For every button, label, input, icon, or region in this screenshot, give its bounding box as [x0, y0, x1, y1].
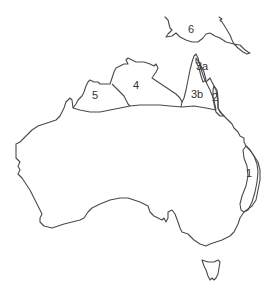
region-label-2: 2: [212, 91, 218, 103]
zone-3b-west-divider: [181, 102, 182, 107]
northern-boundary-line: [73, 105, 216, 112]
map-container: 1 2 3a 3b 4 5 6: [0, 0, 279, 296]
region-label-1: 1: [246, 167, 252, 179]
region-label-4: 4: [133, 79, 139, 91]
region-label-3b: 3b: [191, 88, 203, 100]
region-label-5: 5: [92, 89, 98, 101]
zone-1-outline: [240, 146, 258, 212]
australia-map: 1 2 3a 3b 4 5 6: [0, 0, 279, 296]
zone-4-5-divider: [112, 84, 130, 106]
region-label-3a: 3a: [196, 60, 209, 72]
region-label-6: 6: [188, 23, 194, 35]
tasmania-coastline: [202, 260, 220, 280]
new-guinea-coastline: [165, 17, 250, 54]
